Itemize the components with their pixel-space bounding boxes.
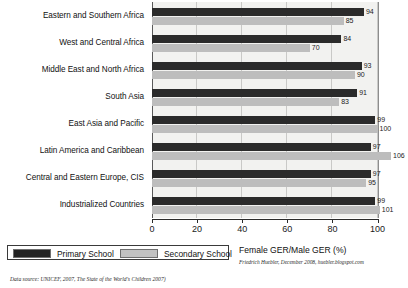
bar-secondary [152, 71, 355, 79]
x-tick-label: 80 [317, 224, 347, 235]
legend-item-secondary: Secondary School [120, 248, 232, 259]
category-label: Central and Eastern Europe, CIS [0, 173, 144, 182]
bar-secondary [152, 98, 339, 106]
gridline-100 [377, 2, 378, 218]
bar-primary [152, 143, 371, 151]
bar-value-label: 100 [378, 125, 392, 133]
x-tick-label: 0 [137, 224, 167, 235]
bar-value-label: 99 [375, 197, 385, 205]
bar-secondary [152, 17, 344, 25]
category-label: West and Central Africa [0, 38, 144, 47]
category-label: South Asia [0, 92, 144, 101]
category-label: Latin America and Caribbean [0, 146, 144, 155]
plot-wrapper: Eastern and Southern AfricaWest and Cent… [0, 2, 408, 218]
x-tick-label: 40 [227, 224, 257, 235]
legend-label-secondary: Secondary School [164, 249, 232, 259]
bar-secondary [152, 152, 391, 160]
bar-value-label: 90 [355, 71, 365, 79]
x-tick-0 [152, 219, 153, 223]
category-label: East Asia and Pacific [0, 119, 144, 128]
bar-value-label: 83 [339, 98, 349, 106]
bar-primary [152, 35, 341, 43]
bar-secondary [152, 179, 366, 187]
x-axis-title: Female GER/Male GER (%) [239, 245, 346, 256]
category-label: Industrialized Countries [0, 200, 144, 209]
legend-swatch-primary-icon [13, 249, 51, 258]
x-tick-20 [197, 219, 198, 223]
bar-value-label: 97 [371, 143, 381, 151]
x-tick-label: 100 [363, 224, 393, 235]
bar-primary [152, 116, 375, 124]
category-axis-labels: Eastern and Southern AfricaWest and Cent… [0, 2, 148, 218]
chart-source-note: Data source: UNICEF, 2007, The State of … [10, 276, 166, 283]
x-tick-80 [332, 219, 333, 223]
bar-primary [152, 89, 357, 97]
chart-credit: Friedrich Huebler, December 2008, hueble… [239, 259, 364, 266]
bar-value-label: 97 [371, 170, 381, 178]
bar-primary [152, 170, 371, 178]
chart-root: Eastern and Southern AfricaWest and Cent… [0, 0, 408, 288]
x-axis-line [152, 219, 379, 220]
bar-value-label: 70 [310, 44, 320, 52]
x-tick-label: 60 [272, 224, 302, 235]
bar-primary [152, 197, 375, 205]
x-tick-60 [287, 219, 288, 223]
bar-value-label: 84 [341, 35, 351, 43]
bar-secondary [152, 44, 310, 52]
bar-value-label: 85 [344, 17, 354, 25]
x-tick-label: 20 [182, 224, 212, 235]
legend-label-primary: Primary School [57, 249, 114, 259]
bar-value-label: 99 [375, 116, 385, 124]
bar-secondary [152, 206, 380, 214]
legend-swatch-secondary-icon [120, 249, 158, 258]
bar-value-label: 95 [366, 179, 376, 187]
bar-value-label: 101 [380, 206, 394, 214]
x-tick-100 [378, 219, 379, 223]
bar-primary [152, 8, 364, 16]
bar-primary [152, 62, 362, 70]
bar-value-label: 94 [364, 8, 374, 16]
legend-item-primary: Primary School [13, 248, 114, 259]
bar-value-label: 106 [391, 152, 405, 160]
bar-secondary [152, 125, 378, 133]
x-tick-40 [242, 219, 243, 223]
bar-value-label: 93 [362, 62, 372, 70]
category-label: Eastern and Southern Africa [0, 11, 144, 20]
category-label: Middle East and North Africa [0, 65, 144, 74]
bar-value-label: 91 [357, 89, 367, 97]
chart-legend: Primary School Secondary School [7, 245, 229, 260]
